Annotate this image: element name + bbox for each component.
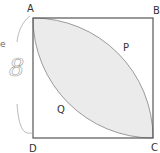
pencil-bracket-lower xyxy=(17,104,33,133)
square-arcs-diagram: A B C D P Q 8 e xyxy=(0,0,160,153)
arc-label-q: Q xyxy=(57,104,65,115)
vertex-label-d: D xyxy=(29,143,37,153)
handwritten-e: e xyxy=(0,39,6,49)
handwritten-eight: 8 xyxy=(9,54,24,82)
vertex-label-c: C xyxy=(151,142,158,153)
vertex-label-b: B xyxy=(153,5,160,16)
arc-label-p: P xyxy=(123,42,129,53)
shaded-region xyxy=(33,18,153,138)
pencil-bracket xyxy=(17,16,30,42)
vertex-label-a: A xyxy=(27,3,34,14)
